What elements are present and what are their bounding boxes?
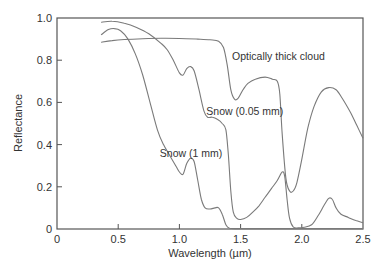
series-label-optically-thick-cloud: Optically thick cloud [232, 50, 325, 62]
x-tick-label: 0 [54, 233, 60, 245]
x-tick-label: 0.5 [111, 233, 126, 245]
x-tick-label: 2.5 [355, 233, 370, 245]
y-tick-label: 0.2 [37, 181, 52, 193]
series-annotations: Snow (0.05 mm)Snow (1 mm)Optically thick… [160, 50, 325, 159]
x-axis-label: Wavelength (µm) [168, 247, 252, 259]
y-tick-label: 0 [46, 223, 52, 235]
x-tick-label: 2.0 [294, 233, 309, 245]
y-tick-label: 0.8 [37, 54, 52, 66]
x-axis: 00.51.01.52.02.5 [54, 224, 371, 245]
series-label-snow-0-05-mm: Snow (0.05 mm) [206, 105, 283, 117]
y-tick-label: 0.4 [37, 139, 52, 151]
reflectance-chart: 00.20.40.60.81.0 00.51.01.52.02.5 Snow (… [0, 0, 387, 275]
x-tick-label: 1.5 [233, 233, 248, 245]
y-axis-label: Reflectance [12, 94, 24, 152]
series-label-snow-1-mm: Snow (1 mm) [160, 147, 222, 159]
x-tick-label: 1.0 [172, 233, 187, 245]
y-tick-label: 1.0 [37, 12, 52, 24]
y-tick-label: 0.6 [37, 96, 52, 108]
y-axis: 00.20.40.60.81.0 [37, 12, 62, 235]
